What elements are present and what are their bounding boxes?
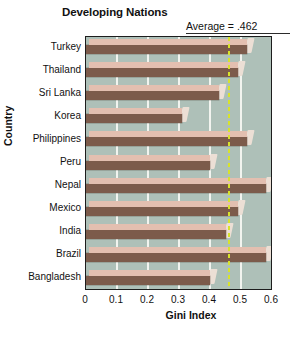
bar-row[interactable] bbox=[86, 129, 257, 152]
x-tick-label-0.5: 0.5 bbox=[225, 294, 255, 305]
category-label-sri-lanka: Sri Lanka bbox=[1, 87, 81, 98]
bar-row[interactable] bbox=[86, 222, 236, 245]
gridline-0.6 bbox=[271, 37, 272, 289]
bar-sri-lanka[interactable] bbox=[86, 91, 219, 100]
bar-top-face bbox=[89, 155, 210, 161]
category-label-philippines: Philippines bbox=[1, 133, 81, 144]
bar-turkey[interactable] bbox=[86, 45, 247, 54]
bar-nepal[interactable] bbox=[86, 184, 266, 193]
bar-top-face bbox=[89, 62, 238, 68]
bar-brazil[interactable] bbox=[86, 253, 266, 262]
x-tick-label-0.3: 0.3 bbox=[163, 294, 193, 305]
bar-philippines[interactable] bbox=[86, 137, 247, 146]
x-axis-title-text: Gini Index bbox=[166, 309, 217, 321]
bar-row[interactable] bbox=[86, 106, 192, 129]
bar-peru[interactable] bbox=[86, 161, 210, 170]
average-annotation-leader-line bbox=[186, 33, 290, 34]
bar-row[interactable] bbox=[86, 153, 220, 176]
bar-row[interactable] bbox=[86, 83, 229, 106]
category-label-korea: Korea bbox=[1, 110, 81, 121]
bar-row[interactable] bbox=[86, 268, 220, 290]
category-label-brazil: Brazil bbox=[1, 248, 81, 259]
bar-top-face bbox=[89, 131, 247, 137]
average-line bbox=[228, 37, 230, 289]
bar-bangladesh[interactable] bbox=[86, 276, 210, 285]
category-label-india: India bbox=[1, 225, 81, 236]
x-tick-label-0.1: 0.1 bbox=[101, 294, 131, 305]
category-label-peru: Peru bbox=[1, 156, 81, 167]
category-label-nepal: Nepal bbox=[1, 179, 81, 190]
bar-top-face bbox=[89, 85, 219, 91]
bar-india[interactable] bbox=[86, 230, 226, 239]
bar-top-face bbox=[89, 224, 226, 230]
x-tick-label-0.2: 0.2 bbox=[132, 294, 162, 305]
bar-top-face bbox=[89, 201, 238, 207]
plot-area bbox=[85, 36, 272, 290]
bar-row[interactable] bbox=[86, 245, 272, 268]
bar-thailand[interactable] bbox=[86, 68, 238, 77]
bar-top-face bbox=[89, 108, 182, 114]
x-tick-label-0: 0 bbox=[70, 294, 100, 305]
bar-mexico[interactable] bbox=[86, 207, 238, 216]
x-tick-label-0.4: 0.4 bbox=[194, 294, 224, 305]
bar-top-face bbox=[89, 39, 247, 45]
category-label-mexico: Mexico bbox=[1, 202, 81, 213]
bar-top-face bbox=[89, 178, 266, 184]
plot-inner bbox=[86, 37, 271, 289]
bar-korea[interactable] bbox=[86, 114, 182, 123]
bar-top-face bbox=[89, 247, 266, 253]
x-tick-label-0.6: 0.6 bbox=[256, 294, 286, 305]
gini-index-bar-chart: Developing Nations Average = .462 Countr… bbox=[0, 0, 298, 343]
category-label-turkey: Turkey bbox=[1, 41, 81, 52]
bar-row[interactable] bbox=[86, 60, 248, 83]
bar-top-face bbox=[89, 270, 210, 276]
chart-title: Developing Nations bbox=[62, 6, 168, 18]
category-label-thailand: Thailand bbox=[1, 64, 81, 75]
bar-row[interactable] bbox=[86, 199, 248, 222]
category-label-bangladesh: Bangladesh bbox=[1, 271, 81, 282]
x-axis-title: Gini Index bbox=[0, 309, 298, 321]
bar-row[interactable] bbox=[86, 176, 272, 199]
bar-row[interactable] bbox=[86, 37, 257, 60]
average-annotation-label: Average = .462 bbox=[186, 20, 257, 32]
